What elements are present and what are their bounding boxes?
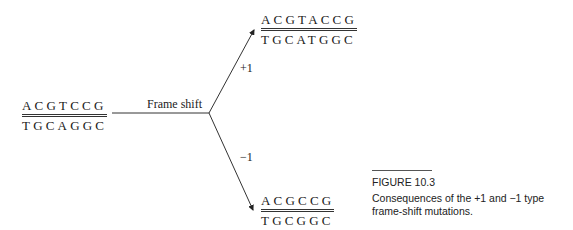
original-sequence: ACGTCCG TGCAGGC bbox=[22, 98, 107, 133]
plus-one-label: +1 bbox=[240, 61, 253, 76]
minus-one-bottom-strand: TGCGGC bbox=[261, 211, 334, 228]
plus-one-sequence: ACGTACCG TGCATGGC bbox=[261, 12, 357, 47]
figure-caption: Consequences of the +1 and −1 type frame… bbox=[372, 192, 562, 218]
figure-number: FIGURE 10.3 bbox=[372, 176, 435, 189]
minus-one-label: −1 bbox=[240, 150, 253, 165]
original-top-strand: ACGTCCG bbox=[22, 98, 107, 115]
frame-shift-label: Frame shift bbox=[147, 97, 202, 112]
original-bottom-strand: TGCAGGC bbox=[22, 116, 107, 133]
minus-one-sequence: ACGCCG TGCGGC bbox=[261, 193, 334, 228]
plus-one-bottom-strand: TGCATGGC bbox=[261, 30, 357, 47]
plus-one-top-strand: ACGTACCG bbox=[261, 12, 357, 29]
caption-rule bbox=[372, 170, 432, 171]
minus-one-top-strand: ACGCCG bbox=[261, 193, 334, 210]
